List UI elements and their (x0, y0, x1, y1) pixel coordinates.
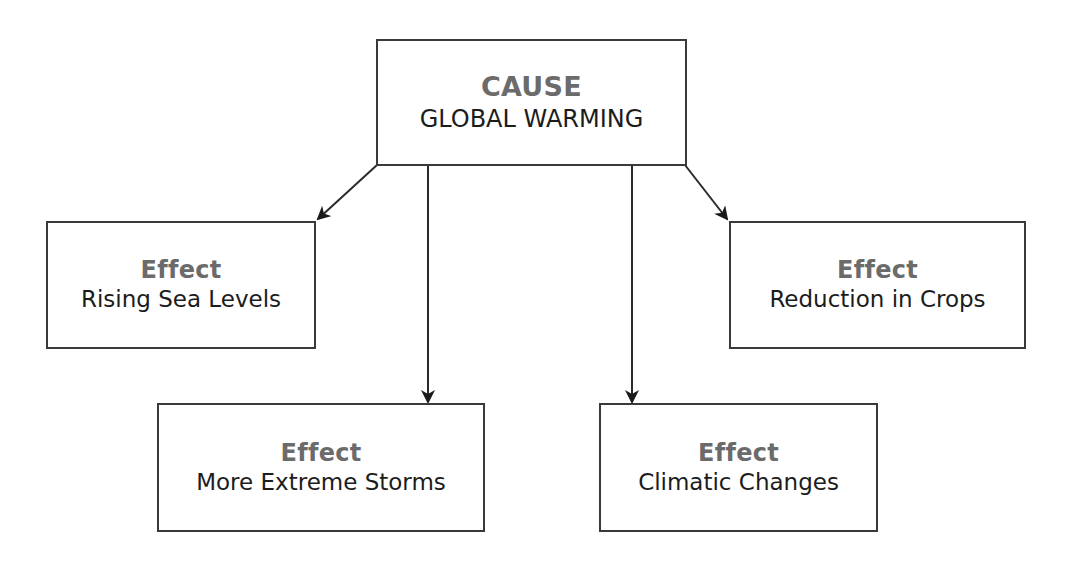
effect-heading: Effect (698, 438, 779, 468)
effect-label: Reduction in Crops (769, 285, 985, 315)
cause-label: GLOBAL WARMING (420, 104, 644, 135)
effect-box-rising-sea-levels: Effect Rising Sea Levels (46, 221, 316, 349)
effect-heading: Effect (837, 255, 918, 285)
effect-label: More Extreme Storms (196, 468, 446, 498)
effect-heading: Effect (280, 438, 361, 468)
effect-box-reduction-in-crops: Effect Reduction in Crops (729, 221, 1026, 349)
arrow-to-rising-sea-levels (318, 165, 377, 219)
effect-heading: Effect (140, 255, 221, 285)
effect-label: Rising Sea Levels (81, 285, 281, 315)
cause-heading: CAUSE (481, 70, 582, 104)
effect-label: Climatic Changes (638, 468, 839, 498)
cause-box: CAUSE GLOBAL WARMING (376, 39, 687, 166)
arrow-to-reduction-in-crops (685, 165, 727, 219)
effect-box-climatic-changes: Effect Climatic Changes (599, 403, 878, 532)
effect-box-more-extreme-storms: Effect More Extreme Storms (157, 403, 485, 532)
